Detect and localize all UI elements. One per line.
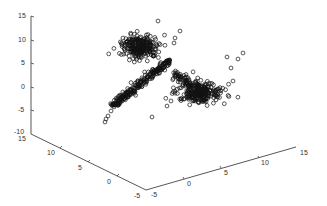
z-tick-label: 10 <box>18 36 26 43</box>
x-axis-base <box>146 147 296 190</box>
x-tick <box>183 177 184 179</box>
z-tick <box>31 16 34 17</box>
data-point <box>163 33 167 37</box>
z-tick <box>31 110 34 111</box>
y-tick-label: 0 <box>107 178 111 185</box>
outlier-point <box>156 19 160 23</box>
outlier-point <box>172 41 176 45</box>
outlier-point <box>225 55 229 59</box>
scatter-3d-chart: 15 10 5 0 -5 -10 15 10 5 0 -5 -5 0 5 10 … <box>0 0 327 206</box>
data-point <box>205 104 209 108</box>
data-point <box>212 101 216 105</box>
y-tick-label: -5 <box>134 192 140 199</box>
data-point <box>227 82 231 86</box>
outlier-point <box>231 79 235 83</box>
data-point <box>176 92 180 96</box>
data-point <box>157 50 161 54</box>
z-tick <box>31 40 34 41</box>
data-point <box>222 102 226 106</box>
outlier-point <box>236 57 240 61</box>
z-tick-label: 15 <box>18 12 26 19</box>
data-point <box>145 59 149 63</box>
outlier-point <box>178 29 182 33</box>
y-tick <box>117 174 119 176</box>
data-point <box>191 70 195 74</box>
z-tick <box>31 63 34 64</box>
data-point <box>127 58 131 62</box>
data-point <box>122 52 126 56</box>
outlier-point <box>169 99 173 103</box>
z-tick-label: 5 <box>21 59 25 66</box>
outlier-point <box>165 104 169 108</box>
axes: 15 10 5 0 -5 -10 15 10 5 0 -5 -5 0 5 10 … <box>14 12 308 199</box>
data-point <box>164 96 168 100</box>
data-point <box>107 52 111 56</box>
z-tick-label: 0 <box>21 83 25 90</box>
y-tick-label: 15 <box>18 135 26 142</box>
x-tick-label: 10 <box>261 159 269 166</box>
data-point <box>109 109 113 113</box>
x-tick-label: 15 <box>300 149 308 156</box>
z-tick-label: -5 <box>18 106 24 113</box>
data-point <box>157 56 161 60</box>
data-point <box>112 47 116 51</box>
data-point <box>163 43 167 47</box>
y-tick-label: 10 <box>47 149 55 156</box>
y-tick <box>60 146 62 148</box>
data-point <box>188 103 192 107</box>
x-tick-label: 5 <box>224 169 228 176</box>
data-point <box>129 81 133 85</box>
data-point <box>226 94 230 98</box>
y-tick <box>88 160 90 162</box>
data-point <box>236 95 240 99</box>
x-tick-label: 0 <box>187 180 191 187</box>
z-tick <box>31 87 34 88</box>
outlier-point <box>150 115 154 119</box>
x-tick <box>220 166 221 168</box>
y-tick-label: 5 <box>78 164 82 171</box>
outlier-point <box>229 66 233 70</box>
outlier-point <box>241 51 245 55</box>
outlier-point <box>173 36 177 40</box>
z-tick-label: -10 <box>14 128 24 135</box>
x-tick-label: -5 <box>151 191 157 198</box>
scatter-points <box>103 19 245 124</box>
